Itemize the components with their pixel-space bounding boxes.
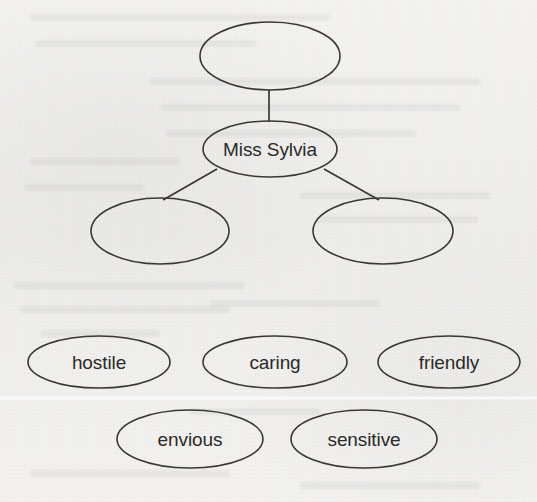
edge-center-to-left [163, 169, 217, 200]
word-bank-node-hostile-label: hostile [72, 352, 126, 373]
word-bank-node-sensitive-label: sensitive [327, 429, 400, 450]
concept-node-right[interactable] [313, 198, 453, 264]
word-bank-node-envious-label: envious [158, 429, 223, 450]
node-group: Miss Sylvia [91, 22, 453, 264]
scanned-page: Miss Sylvia hostilecaringfriendlyenvious… [0, 0, 537, 502]
concept-map-diagram: Miss Sylvia hostilecaringfriendlyenvious… [0, 0, 537, 502]
word-bank-group: hostilecaringfriendlyenvioussensitive [28, 336, 520, 468]
concept-node-top[interactable] [200, 22, 340, 90]
concept-node-left[interactable] [91, 198, 229, 264]
edge-center-to-right [324, 169, 379, 200]
word-bank-node-caring-label: caring [249, 352, 300, 373]
concept-node-center-label: Miss Sylvia [223, 139, 317, 160]
word-bank-node-friendly-label: friendly [419, 352, 480, 373]
